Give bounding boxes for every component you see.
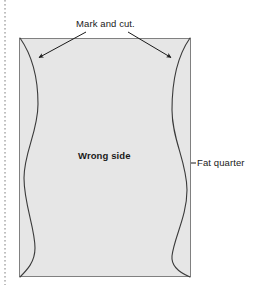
label-wrong-side: Wrong side [78,150,131,161]
diagram-canvas [0,0,260,285]
fat-quarter-diagram: Mark and cut. Wrong side Fat quarter [0,0,260,285]
label-fat-quarter: Fat quarter [197,157,245,168]
label-mark-and-cut: Mark and cut. [76,18,135,29]
